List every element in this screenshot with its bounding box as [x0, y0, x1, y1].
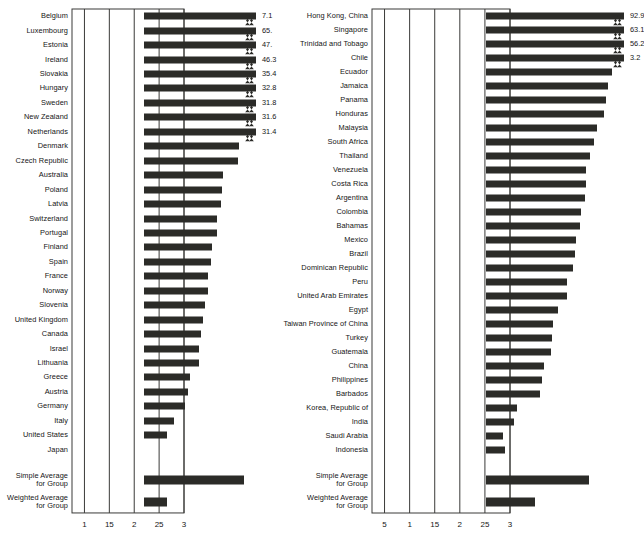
category-label: Latvia [0, 200, 72, 208]
bar-track [372, 401, 516, 415]
axis-break-icon [612, 40, 621, 49]
category-label: Slovakia [0, 70, 72, 78]
value-bar [144, 403, 185, 410]
x-tick-label: 25 [155, 520, 164, 529]
value-bar [144, 258, 211, 265]
category-label: Luxembourg [0, 27, 72, 35]
summary-label: Weighted Averagefor Group [0, 494, 72, 510]
bar-row: Italy [0, 414, 258, 428]
category-label: Canada [0, 330, 72, 338]
category-label: Thailand [258, 152, 372, 160]
category-label: Singapore [258, 26, 372, 34]
bar-row: Trinidad and Tobago56.2 [258, 37, 516, 51]
bar-track: 32.8 [72, 81, 258, 95]
x-tick-label: 2 [458, 520, 462, 529]
bar-track [372, 443, 516, 457]
axis-break-icon [244, 84, 253, 93]
bar-track [72, 211, 258, 225]
category-label: Peru [258, 278, 372, 286]
value-bar [144, 201, 221, 208]
bar-row: Turkey [258, 331, 516, 345]
bar-row: Canada [0, 327, 258, 341]
bar-track: 92.9 [372, 9, 516, 23]
category-label: Lithuania [0, 359, 72, 367]
value-bar [144, 172, 223, 179]
bar-track [372, 219, 516, 233]
category-label: Colombia [258, 208, 372, 216]
bar-row: India [258, 415, 516, 429]
x-tick-label: 15 [105, 520, 114, 529]
value-bar [144, 114, 256, 121]
bar-row: Portugal [0, 226, 258, 240]
bar-row: Singapore63.1 [258, 23, 516, 37]
bar-row: Poland [0, 182, 258, 196]
data-label: 63.1 [630, 26, 644, 34]
bar-row: France [0, 269, 258, 283]
chart-panel-left: Belgium7.1Luxembourg65.Estonia47.Ireland… [0, 0, 258, 541]
data-label: 92.9 [630, 12, 644, 20]
bar-row: Dominican Republic [258, 261, 516, 275]
category-label: Japan [0, 446, 72, 454]
bar-track [372, 359, 516, 373]
category-label: Australia [0, 171, 72, 179]
axis-break-icon [244, 127, 253, 136]
bar-track [372, 65, 516, 79]
value-bar [144, 99, 256, 106]
value-bar [486, 279, 567, 286]
value-bar [144, 71, 256, 78]
category-label: Saudi Arabia [258, 432, 372, 440]
value-bar [486, 447, 505, 454]
summary-row: Weighted Averagefor Group [258, 491, 516, 513]
value-bar [486, 223, 580, 230]
value-bar [486, 419, 514, 426]
value-bar [144, 85, 256, 92]
bar-row: United Kingdom [0, 312, 258, 326]
x-tick-label: 25 [480, 520, 489, 529]
bar-track [72, 312, 258, 326]
bar-track [372, 469, 516, 491]
bar-row: Egypt [258, 303, 516, 317]
bar-row: New Zealand31.6 [0, 110, 258, 124]
value-bar [144, 244, 212, 251]
value-bar [486, 27, 624, 34]
bar-row: Jamaica [258, 79, 516, 93]
bar-row: Costa Rica [258, 177, 516, 191]
bar-row: Guatemala [258, 345, 516, 359]
bar-row: Honduras [258, 107, 516, 121]
category-label: Jamaica [258, 82, 372, 90]
value-bar [486, 321, 553, 328]
category-label: Italy [0, 417, 72, 425]
bar-track [372, 149, 516, 163]
bar-track [72, 139, 258, 153]
bar-track [72, 443, 258, 457]
category-label: Turkey [258, 334, 372, 342]
bar-track: 46.3 [72, 52, 258, 66]
category-label: France [0, 272, 72, 280]
value-bar [144, 27, 256, 34]
bar-row: Philippines [258, 373, 516, 387]
category-label: India [258, 418, 372, 426]
value-bar [486, 167, 586, 174]
category-label: Poland [0, 186, 72, 194]
value-bar [144, 316, 203, 323]
category-label: Switzerland [0, 215, 72, 223]
bar-row: Slovenia [0, 298, 258, 312]
bar-track [72, 269, 258, 283]
bar-row: Belgium7.1 [0, 9, 258, 23]
value-bar [486, 209, 581, 216]
bar-row: Sweden31.8 [0, 96, 258, 110]
bar-row: Germany [0, 399, 258, 413]
category-label: South Africa [258, 138, 372, 146]
value-bar [144, 42, 256, 49]
bar-track [72, 414, 258, 428]
value-bar [144, 287, 208, 294]
bar-track [372, 289, 516, 303]
bar-track [372, 345, 516, 359]
category-label: Ireland [0, 56, 72, 64]
axis-break-icon [244, 12, 253, 21]
category-label: Spain [0, 258, 72, 266]
summary-label: Weighted Averagefor Group [258, 494, 372, 510]
bar-row: Czech Republic [0, 154, 258, 168]
value-bar [486, 307, 558, 314]
